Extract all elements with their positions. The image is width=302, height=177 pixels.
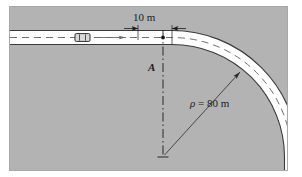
radius-value-text: = 80 m [195, 97, 229, 109]
figure-root: 10 m A ρ = 80 m [0, 0, 302, 177]
radius-label: ρ = 80 m [190, 98, 229, 109]
dimension-label: 10 m [133, 12, 155, 23]
road-edges [10, 31, 299, 176]
vehicle-icon [75, 34, 90, 42]
point-a-label: A [148, 62, 155, 73]
radius-center-axis [158, 30, 169, 157]
figure-diagram [0, 0, 302, 177]
radius-leader-line [165, 72, 241, 155]
road-surface [10, 38, 292, 176]
